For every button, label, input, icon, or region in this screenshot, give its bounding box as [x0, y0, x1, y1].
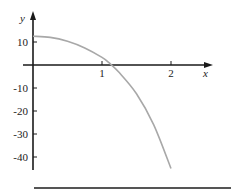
y-axis-arrow-icon — [30, 11, 36, 20]
x-tick-label: 1 — [99, 67, 105, 79]
function-plot: 1210-10-20-30-40xy — [0, 0, 231, 195]
curve — [33, 36, 171, 168]
axes — [23, 11, 213, 170]
labels: 1210-10-20-30-40xy — [13, 12, 208, 163]
y-axis-label: y — [19, 12, 25, 24]
y-tick-label: -40 — [13, 151, 28, 163]
y-tick-label: -30 — [13, 128, 28, 140]
x-tick-label: 2 — [168, 67, 174, 79]
y-tick-label: -10 — [13, 82, 28, 94]
y-tick-label: 10 — [17, 36, 29, 48]
function-curve — [33, 36, 171, 168]
x-axis-label: x — [202, 67, 208, 79]
y-tick-label: -20 — [13, 105, 28, 117]
